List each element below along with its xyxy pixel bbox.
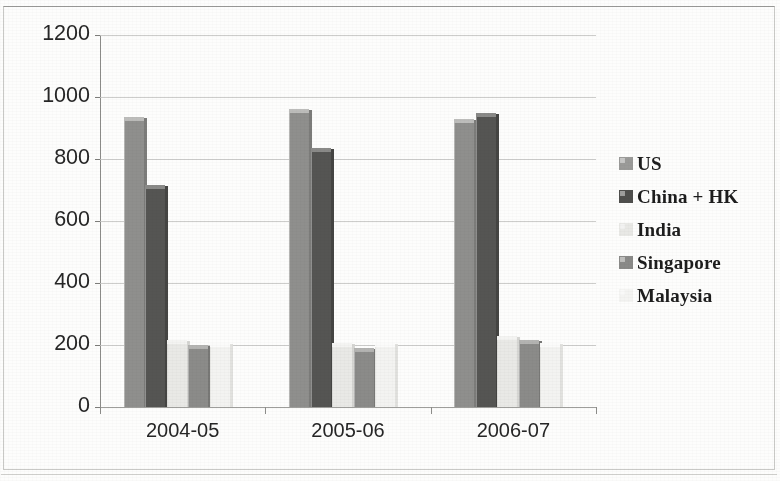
bar-face: [311, 151, 331, 407]
bar-india-2005-06: [332, 343, 352, 407]
bar-us-2004-05: [124, 117, 144, 407]
legend-swatch-icon: [619, 256, 633, 269]
plot-area: [100, 35, 596, 407]
bar-group-2005-06: [289, 35, 395, 407]
bar-india-2004-05: [167, 340, 187, 407]
legend-item-china-hk[interactable]: China + HK: [619, 180, 779, 213]
y-tick-mark-400: [95, 283, 100, 284]
bar-top: [454, 119, 474, 123]
bar-face: [519, 343, 539, 407]
x-tick-1: [265, 407, 266, 414]
y-tick-label-200: 200: [14, 331, 90, 356]
legend-label: US: [637, 153, 662, 175]
bar-singapore-2005-06: [354, 348, 374, 407]
legend-swatch-icon: [619, 190, 633, 203]
bar-top: [210, 343, 230, 347]
bar-face: [540, 346, 560, 407]
y-tick-label-0: 0: [14, 393, 90, 418]
bar-group-2006-07: [454, 35, 560, 407]
gridline-0: [100, 407, 596, 408]
x-tick-3: [596, 407, 597, 414]
y-tick-label-1000: 1000: [14, 83, 90, 108]
y-tick-mark-800: [95, 159, 100, 160]
chart-legend: USChina + HKIndiaSingaporeMalaysia: [619, 147, 779, 312]
bar-china-hk-2004-05: [145, 185, 165, 407]
y-tick-label-800: 800: [14, 145, 90, 170]
chart-page: 020040060080010001200 2004-052005-062006…: [0, 0, 780, 481]
bar-face: [210, 346, 230, 407]
legend-item-india[interactable]: India: [619, 213, 779, 246]
x-tick-0: [100, 407, 101, 414]
bar-face: [354, 351, 374, 407]
bar-top: [289, 109, 309, 113]
bar-us-2005-06: [289, 109, 309, 407]
legend-swatch-icon: [619, 289, 633, 302]
bar-top: [124, 117, 144, 121]
bar-top: [476, 113, 496, 117]
bar-side: [395, 344, 398, 407]
bar-face: [476, 116, 496, 408]
bar-top: [167, 340, 187, 344]
bar-top: [311, 148, 331, 152]
bar-top: [540, 343, 560, 347]
bar-china-hk-2005-06: [311, 148, 331, 407]
legend-swatch-icon: [619, 157, 633, 170]
y-tick-mark-1200: [95, 35, 100, 36]
y-tick-mark-200: [95, 345, 100, 346]
legend-label: Singapore: [637, 252, 721, 274]
x-axis-label-2004-05: 2004-05: [103, 419, 263, 442]
bar-group-2004-05: [124, 35, 230, 407]
bar-face: [289, 112, 309, 407]
bar-side: [230, 344, 233, 407]
bar-face: [124, 120, 144, 407]
bar-top: [332, 343, 352, 347]
bar-top: [497, 336, 517, 340]
bar-top: [188, 345, 208, 349]
legend-label: Malaysia: [637, 285, 713, 307]
bar-face: [497, 339, 517, 407]
y-tick-label-600: 600: [14, 207, 90, 232]
bar-face: [188, 348, 208, 407]
y-tick-label-1200: 1200: [14, 21, 90, 46]
bar-face: [167, 343, 187, 407]
bar-malaysia-2006-07: [540, 343, 560, 407]
legend-swatch-icon: [619, 223, 633, 236]
bar-india-2006-07: [497, 336, 517, 407]
x-axis-label-2006-07: 2006-07: [433, 419, 593, 442]
bar-top: [519, 340, 539, 344]
bar-side: [560, 344, 563, 407]
bar-face: [454, 122, 474, 407]
x-axis-label-2005-06: 2005-06: [268, 419, 428, 442]
y-tick-mark-600: [95, 221, 100, 222]
legend-item-malaysia[interactable]: Malaysia: [619, 279, 779, 312]
bar-top: [354, 348, 374, 352]
bar-face: [375, 346, 395, 407]
bar-china-hk-2006-07: [476, 113, 496, 408]
bar-top: [145, 185, 165, 189]
y-tick-label-400: 400: [14, 269, 90, 294]
legend-label: India: [637, 219, 681, 241]
legend-label: China + HK: [637, 186, 739, 208]
legend-item-us[interactable]: US: [619, 147, 779, 180]
bar-us-2006-07: [454, 119, 474, 407]
bar-face: [145, 188, 165, 407]
bar-top: [375, 343, 395, 347]
bar-face: [332, 346, 352, 407]
legend-item-singapore[interactable]: Singapore: [619, 246, 779, 279]
bar-singapore-2004-05: [188, 345, 208, 407]
y-tick-mark-1000: [95, 97, 100, 98]
x-tick-2: [431, 407, 432, 414]
bar-malaysia-2005-06: [375, 343, 395, 407]
bar-singapore-2006-07: [519, 340, 539, 407]
bar-malaysia-2004-05: [210, 343, 230, 407]
